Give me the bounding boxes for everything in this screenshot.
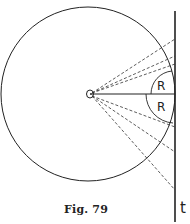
arc-label-upper: R <box>157 79 165 93</box>
center-dot <box>90 93 92 95</box>
figure-caption: Fig. 79 <box>64 203 108 216</box>
diagram-canvas: R R <box>0 0 190 224</box>
arc-label-lower: R <box>157 100 165 114</box>
line-label-t: t <box>180 199 186 217</box>
dashed-rays <box>92 39 175 190</box>
